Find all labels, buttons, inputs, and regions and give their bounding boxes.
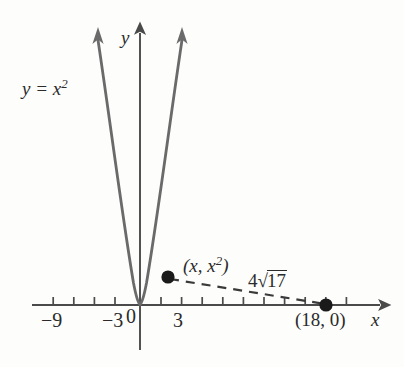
x-axis-label: x (371, 310, 379, 329)
x-tick-label-neg9: −9 (41, 310, 62, 330)
parabola-figure: y = x2 y x −9 −3 0 3 (x, x2) 4√17 (18, 0… (0, 0, 404, 367)
tangency-point-label-prefix: (x, x (183, 255, 216, 276)
distance-length-label: 4√17 (248, 270, 287, 290)
curve-equation-text: y = x (22, 78, 61, 99)
distance-coefficient: 4 (248, 270, 258, 291)
tangency-point-label-suffix: ) (222, 255, 228, 276)
x-intercept-point-label: (18, 0) (295, 310, 346, 329)
distance-radicand: 17 (267, 270, 287, 290)
square-root-icon: √17 (258, 270, 287, 290)
tangency-point-label: (x, x2) (183, 256, 228, 275)
curve-equation-label: y = x2 (22, 79, 68, 98)
origin-label: 0 (126, 306, 136, 326)
x-tick-label-neg3: −3 (102, 310, 123, 330)
x-tick-label-3: 3 (173, 310, 183, 330)
curve-equation-exponent: 2 (61, 76, 67, 91)
tangency-point-dot (161, 270, 174, 283)
y-axis-label: y (121, 28, 129, 47)
